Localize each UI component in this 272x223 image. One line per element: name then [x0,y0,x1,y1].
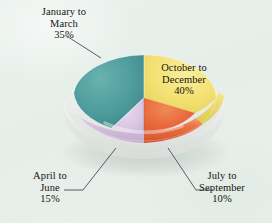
pie-label-january-to-march: January to March 35% [18,6,110,41]
label-line-1: April to [8,170,92,182]
label-value: 10% [174,193,270,205]
chart-canvas: January to March 35% October to December… [0,0,272,223]
label-line-1: October to [142,62,226,74]
pie-label-april-to-june: April to June 15% [8,170,92,205]
label-line-2: December [142,74,226,86]
label-line-1: January to [18,6,110,18]
label-line-1: July to [174,170,270,182]
label-value: 40% [142,85,226,97]
label-line-2: March [18,18,110,30]
pie-label-october-to-december: October to December 40% [142,62,226,97]
label-value: 35% [18,29,110,41]
label-line-2: June [8,182,92,194]
label-line-2: September [174,182,270,194]
label-value: 15% [8,193,92,205]
pie-label-july-to-september: July to September 10% [174,170,270,205]
